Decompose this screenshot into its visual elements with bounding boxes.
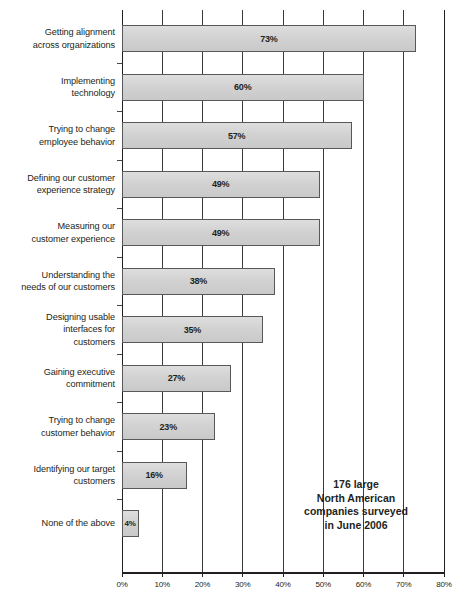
y-minor-tick [117, 402, 122, 403]
y-minor-tick [117, 63, 122, 64]
bar-value-label: 49% [212, 179, 229, 189]
bar: 27% [122, 365, 232, 392]
bar: 73% [122, 25, 417, 52]
bar: 49% [122, 219, 320, 246]
category-label: Getting alignmentacross organizations [0, 26, 115, 51]
category-label-line: customer behavior [0, 427, 115, 440]
bar: 38% [122, 268, 276, 295]
x-axis-line [122, 572, 445, 574]
bar: 23% [122, 413, 216, 440]
y-minor-tick [117, 499, 122, 500]
category-label: Defining our customerexperience strategy [0, 172, 115, 197]
bar: 57% [122, 122, 352, 149]
bar-value-label: 49% [212, 228, 229, 238]
y-minor-tick [117, 111, 122, 112]
category-label: Designing usableinterfaces forcustomers [0, 311, 115, 349]
y-minor-tick [117, 257, 122, 258]
x-tick [162, 572, 163, 577]
x-tick-label: 60% [356, 580, 371, 589]
x-tick [444, 572, 445, 577]
bar-value-label: 35% [184, 325, 201, 335]
category-label-line: across organizations [0, 39, 115, 52]
bar: 49% [122, 171, 320, 198]
category-label: None of the above [0, 517, 115, 530]
category-label-line: experience strategy [0, 184, 115, 197]
bar-value-label: 27% [168, 373, 185, 383]
bar-value-label: 23% [160, 422, 177, 432]
category-label-line: Designing usable [0, 311, 115, 324]
category-label-line: employee behavior [0, 136, 115, 149]
category-label: Gaining executivecommitment [0, 366, 115, 391]
category-label-line: Measuring our [0, 220, 115, 233]
x-tick-label: 70% [396, 580, 411, 589]
bar: 4% [122, 510, 139, 537]
category-label: Implementingtechnology [0, 75, 115, 100]
category-label-line: commitment [0, 378, 115, 391]
category-label-line: customers [0, 475, 115, 488]
x-tick-label: 0% [116, 580, 127, 589]
bar-value-label: 38% [190, 276, 207, 286]
bar: 16% [122, 462, 187, 489]
x-tick-label: 80% [436, 580, 451, 589]
x-tick [363, 572, 364, 577]
bar-value-label: 57% [228, 131, 245, 141]
y-minor-tick [117, 451, 122, 452]
bar-value-label: 16% [145, 470, 162, 480]
category-label-line: Trying to change [0, 123, 115, 136]
category-label: Measuring ourcustomer experience [0, 220, 115, 245]
survey-annotation: 176 large North American companies surve… [268, 478, 444, 532]
category-label-line: Getting alignment [0, 26, 115, 39]
x-tick [242, 572, 243, 577]
category-label: Trying to changecustomer behavior [0, 414, 115, 439]
x-tick-label: 40% [275, 580, 290, 589]
category-label-line: customer experience [0, 233, 115, 246]
category-label-line: customers [0, 336, 115, 349]
x-tick-label: 10% [155, 580, 170, 589]
x-tick-label: 30% [235, 580, 250, 589]
bar: 60% [122, 74, 365, 101]
category-label-line: Gaining executive [0, 366, 115, 379]
category-label-line: None of the above [0, 517, 115, 530]
x-tick-label: 50% [316, 580, 331, 589]
x-tick-label: 20% [195, 580, 210, 589]
category-label: Identifying our targetcustomers [0, 463, 115, 488]
category-label: Trying to changeemployee behavior [0, 123, 115, 148]
y-minor-tick [117, 354, 122, 355]
category-label: Understanding theneeds of our customers [0, 269, 115, 294]
y-minor-tick [117, 208, 122, 209]
annotation-line-1: 176 large [268, 478, 444, 492]
annotation-line-3: companies surveyed [268, 505, 444, 519]
bar-value-label: 73% [260, 34, 277, 44]
x-tick [122, 572, 123, 577]
category-label-line: Implementing [0, 75, 115, 88]
bar-chart: 0%10%20%30%40%50%60%70%80%73%Getting ali… [0, 0, 457, 609]
category-label-line: interfaces for [0, 323, 115, 336]
category-label-line: needs of our customers [0, 281, 115, 294]
category-label-line: Identifying our target [0, 463, 115, 476]
x-tick [202, 572, 203, 577]
y-minor-tick [117, 160, 122, 161]
annotation-line-2: North American [268, 492, 444, 506]
x-tick [283, 572, 284, 577]
annotation-line-4: in June 2006 [268, 519, 444, 533]
x-tick [323, 572, 324, 577]
category-label-line: Understanding the [0, 269, 115, 282]
bar-value-label: 60% [234, 82, 251, 92]
category-label-line: Trying to change [0, 414, 115, 427]
category-label-line: Defining our customer [0, 172, 115, 185]
category-label-line: technology [0, 87, 115, 100]
bar-value-label: 4% [124, 519, 135, 528]
bar: 35% [122, 316, 264, 343]
y-minor-tick [117, 305, 122, 306]
x-tick [403, 572, 404, 577]
